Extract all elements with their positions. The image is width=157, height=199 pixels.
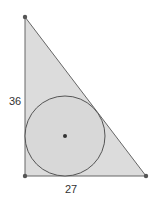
horizontal-leg-label: 27 — [65, 183, 77, 195]
vertex-bottom-right — [144, 174, 148, 178]
incircle-center-point — [63, 134, 67, 138]
vertex-top — [23, 15, 27, 19]
diagram-canvas: 36 27 — [0, 0, 157, 199]
vertical-leg-label: 36 — [9, 95, 21, 107]
vertex-bottom-left — [23, 174, 27, 178]
